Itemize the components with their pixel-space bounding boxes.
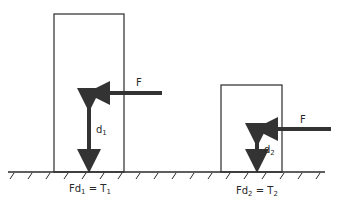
force-label-left: F bbox=[136, 77, 142, 88]
ground bbox=[8, 172, 325, 179]
distance-label-right: d2 bbox=[264, 144, 275, 157]
distance-label-left: d1 bbox=[96, 124, 107, 137]
force-label-right: F bbox=[300, 114, 306, 125]
torque-diagram bbox=[0, 0, 337, 207]
equation-left: Fd1 = T1 bbox=[69, 183, 111, 196]
equation-right: Fd2 = T2 bbox=[236, 185, 278, 198]
